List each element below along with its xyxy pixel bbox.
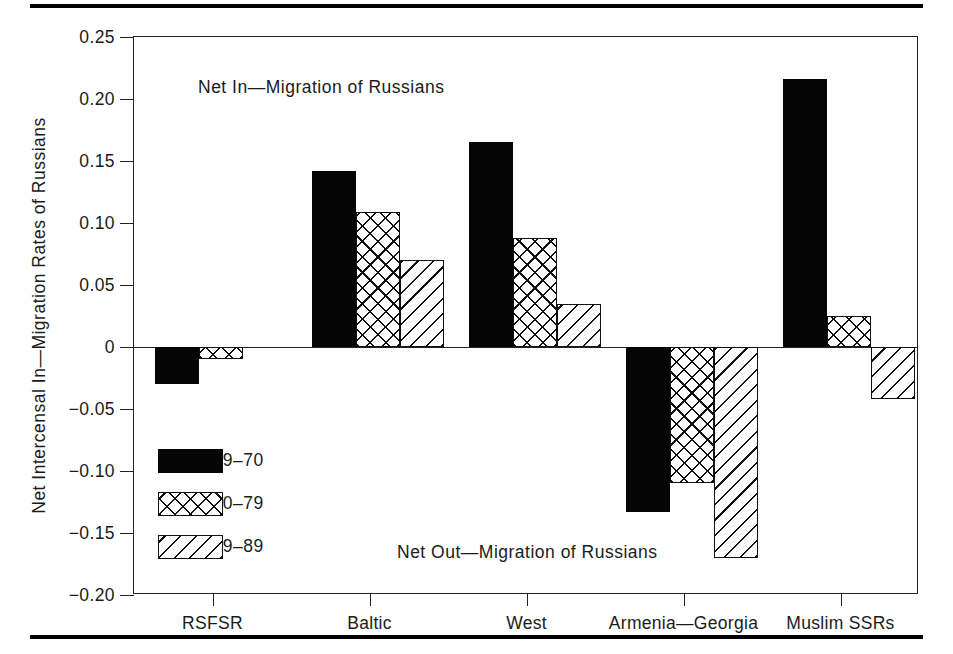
bar [155, 347, 199, 384]
x-axis-tick-label: Muslim SSRs [786, 613, 894, 634]
x-axis-tick [213, 593, 214, 606]
y-axis-tick-label: −0.15 [69, 523, 115, 544]
y-axis-tick [120, 533, 134, 534]
bar [356, 212, 400, 347]
x-axis-tick [841, 593, 842, 606]
bottom-rule [30, 635, 923, 639]
y-axis-tick-label: 0.25 [79, 27, 115, 48]
y-axis-tick-label: 0.20 [79, 89, 115, 110]
x-axis-tick-label: Baltic [347, 613, 392, 634]
y-axis-tick [120, 285, 134, 286]
x-axis-tick-label: RSFSR [182, 613, 243, 634]
y-axis-tick [120, 37, 134, 38]
x-axis-tick [370, 593, 371, 606]
bar [469, 142, 513, 347]
bar [513, 238, 557, 347]
y-axis-tick [120, 595, 134, 596]
y-axis-tick [120, 161, 134, 162]
y-axis-title-text: Net Intercensal In—Migration Rates of Ru… [29, 117, 50, 514]
x-axis-tick [527, 593, 528, 606]
bar [400, 260, 444, 347]
y-axis-tick-label: 0.10 [79, 213, 115, 234]
legend-swatch-1970-79 [158, 492, 223, 516]
y-axis-tick [120, 409, 134, 410]
x-axis-tick-label: Armenia—Georgia [609, 613, 758, 634]
bar [199, 347, 243, 359]
y-axis-tick [120, 223, 134, 224]
y-axis-tick [120, 99, 134, 100]
y-axis-tick-label: 0.05 [79, 275, 115, 296]
legend-item: 1979‒89 [158, 525, 264, 568]
y-axis-tick-label: 0.15 [79, 151, 115, 172]
legend-swatch-1979-89 [158, 535, 223, 559]
annotation-in-migration: Net In—Migration of Russians [198, 77, 444, 98]
chart-legend: 1959‒70 1970‒79 1979‒89 [158, 439, 264, 568]
x-axis-tick-label: West [506, 613, 547, 634]
bar [557, 304, 601, 347]
x-axis-tick [684, 593, 685, 606]
bar [312, 171, 356, 347]
plot-inner: Net In—Migration of Russians Net Out—Mig… [134, 37, 917, 593]
y-axis-tick-label: 0 [105, 337, 115, 358]
y-axis-tick [120, 347, 134, 348]
bar [626, 347, 670, 512]
y-axis-tick-label: −0.05 [69, 399, 115, 420]
legend-item: 1959‒70 [158, 439, 264, 482]
y-axis-tick [120, 471, 134, 472]
y-axis-title: Net Intercensal In—Migration Rates of Ru… [26, 36, 52, 594]
bar [871, 347, 915, 399]
y-axis-tick-label: −0.10 [69, 461, 115, 482]
bar [827, 316, 871, 347]
legend-item: 1970‒79 [158, 482, 264, 525]
bar [783, 79, 827, 347]
bar [670, 347, 714, 483]
top-rule [30, 4, 923, 8]
y-axis-tick-label: −0.20 [69, 585, 115, 606]
annotation-out-migration: Net Out—Migration of Russians [397, 542, 658, 563]
bar [714, 347, 758, 558]
legend-swatch-1959-70 [158, 449, 223, 473]
plot-area: Net In—Migration of Russians Net Out—Mig… [133, 36, 918, 594]
zero-baseline [134, 347, 917, 348]
